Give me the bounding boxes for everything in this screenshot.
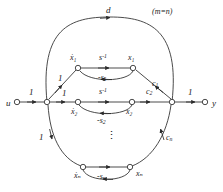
- signal-flow-graph-figure: d (m=n) u y 1 1 1 1 1 ẋ₁ x₁ s-1 -s1 c1 ẋ…: [0, 0, 223, 192]
- label-integrator-2-exponent: -1: [102, 87, 107, 93]
- label-node-x2dot: ẋ₂: [71, 108, 77, 116]
- label-note-m-equals-n: (m=n): [152, 8, 173, 16]
- label-node-u: u: [6, 99, 11, 108]
- edge-feedback2-arc: [79, 105, 132, 114]
- node-xndot: [80, 164, 85, 169]
- label-node-x1: x₁: [128, 54, 134, 62]
- label-feedback-2-subscript: 2: [103, 119, 106, 125]
- label-integrator-1-exponent: -1: [102, 53, 107, 59]
- label-out-gain-2-subscript: 2: [150, 90, 153, 96]
- label-node-xndot: ẋₙ: [74, 172, 81, 180]
- edge-feedbackn-arc: [83, 170, 130, 179]
- label-out-gain-2: c2: [146, 88, 152, 97]
- label-out-gain-n-subscript: n: [170, 136, 173, 142]
- label-gain-y: 1: [188, 88, 193, 97]
- ellipsis-vertical: ⋮: [106, 134, 116, 137]
- node-junction-right: [169, 99, 174, 104]
- label-feedback-1-subscript: 1: [104, 76, 107, 82]
- label-feedback-n-subscript: n: [103, 175, 106, 181]
- label-integrator-2: s-1: [99, 88, 107, 96]
- node-xn: [127, 164, 132, 169]
- node-u: [14, 99, 19, 104]
- label-node-xn: xₙ: [136, 170, 143, 178]
- label-out-gain-1-subscript: 1: [156, 82, 159, 88]
- label-gain-branch-2: 1: [62, 89, 67, 98]
- edge-branchn-arrowhead: [50, 129, 52, 139]
- node-x2dot: [75, 99, 80, 104]
- node-x2: [129, 99, 134, 104]
- label-out-gain-n: cn: [166, 134, 172, 143]
- label-feedback-n: -sn: [97, 173, 106, 182]
- label-feedback-1: -s1: [98, 74, 107, 83]
- label-feedback-2: -s2: [97, 117, 106, 126]
- edge-branch1-arrowhead: [55, 85, 62, 93]
- label-node-y: y: [212, 99, 216, 108]
- node-x1dot: [75, 65, 80, 70]
- node-junction-left: [44, 99, 49, 104]
- node-y: [202, 99, 207, 104]
- label-d: d: [106, 6, 111, 15]
- label-node-x2: x₂: [126, 108, 132, 116]
- label-gain-u: 1: [29, 88, 34, 97]
- label-gain-branch-n: 1: [39, 133, 44, 142]
- label-integrator-1: s-1: [99, 54, 107, 62]
- label-node-x1dot: ẋ₁: [70, 54, 76, 62]
- label-gain-branch-1: 1: [58, 74, 63, 83]
- node-x1: [130, 65, 135, 70]
- edge-d-arrow: [100, 18, 110, 19]
- ellipsis-glyph: ⋮: [106, 134, 116, 137]
- label-out-gain-1: c1: [152, 80, 158, 89]
